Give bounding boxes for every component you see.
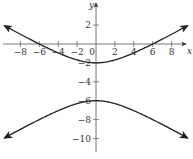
y-tick-label: −4 [78, 77, 92, 87]
x-tick-label: 2 [112, 47, 118, 57]
x-tick-label: 8 [169, 47, 175, 57]
x-tick-label: −6 [33, 47, 47, 57]
x-tick-label: −2 [70, 47, 83, 57]
y-axis-label: y [88, 0, 95, 10]
x-tick-label: −8 [14, 47, 28, 57]
x-tick-label: 0 [89, 47, 95, 57]
y-tick-label: −8 [78, 115, 92, 125]
y-tick-label: 2 [85, 20, 91, 30]
y-tick-label: −10 [72, 134, 91, 144]
x-tick-label: 6 [150, 47, 156, 57]
x-axis-label: x [187, 46, 192, 56]
hyperbola-graph: xy−8−6−4−2024682−2−4−6−8−10 [0, 0, 193, 159]
plot-area: xy−8−6−4−2024682−2−4−6−8−10 [0, 0, 193, 159]
